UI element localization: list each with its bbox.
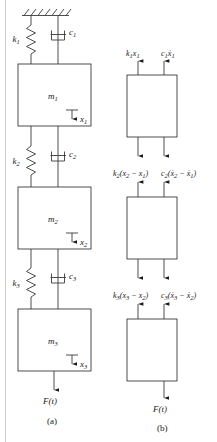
damper-c3 [51, 249, 67, 309]
fbd-label-force-b: F(t) [152, 404, 167, 414]
label-force-a: F(t) [42, 396, 57, 406]
spring-k2 [27, 126, 36, 187]
fbd-block-m1 [127, 75, 177, 137]
label-k1: k1 [13, 34, 20, 45]
label-k3: k3 [13, 278, 21, 289]
damper-c2 [51, 126, 67, 187]
label-c3: c3 [69, 271, 77, 282]
label-k2: k2 [13, 156, 21, 167]
fbd-label-k1x1: k1x1 [126, 49, 140, 59]
fbd-block-m2 [127, 197, 177, 259]
damper-c1 [51, 16, 67, 65]
fbd-label-c1x1dot: c1ẋ1 [161, 49, 175, 59]
fbd-label-k3-diff: k3(x3 − x2) [113, 291, 148, 301]
free-body-diagram-b: k1x1 c1ẋ1 k2(x2 − x1) c2(ẋ2 − ẋ1) k3(x3 … [113, 49, 196, 433]
figure-spring-mass-damper-system: k1 c1 m1 x1 k2 c2 [0, 0, 217, 442]
label-c1: c1 [69, 27, 76, 38]
fbd-label-c3-diff: c3(ẋ3 − ẋ2) [161, 291, 196, 301]
fbd-label-c2-diff: c2(ẋ2 − ẋ1) [161, 169, 196, 179]
caption-b: (b) [157, 423, 168, 433]
label-c2: c2 [69, 149, 77, 160]
system-diagram-a: k1 c1 m1 x1 k2 c2 [13, 9, 92, 426]
caption-a: (a) [47, 416, 57, 426]
fbd-block-m3 [127, 319, 177, 381]
spring-k1 [27, 16, 36, 65]
spring-k3 [27, 249, 36, 309]
fbd-label-k2-diff: k2(x2 − x1) [113, 169, 148, 179]
ground-support [22, 9, 71, 16]
